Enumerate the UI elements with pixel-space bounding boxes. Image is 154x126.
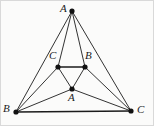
edge-B-Ap — [16, 89, 72, 112]
edge-A-C — [72, 11, 131, 111]
edge-A-B — [16, 11, 72, 112]
label-inner-bottom: A — [68, 92, 75, 103]
edge-B-C — [16, 111, 131, 112]
figure-canvas — [0, 0, 154, 126]
vertex-inner-right — [82, 64, 87, 69]
label-inner-left: C — [49, 50, 56, 61]
label-outer-left: B — [3, 103, 10, 114]
label-outer-apex: A — [60, 3, 67, 14]
vertex-inner-left — [55, 64, 60, 69]
geometry-figure: ABCCBA — [0, 0, 154, 126]
edge-Bp-Ap — [72, 67, 85, 89]
vertex-outer-right — [128, 108, 133, 113]
label-inner-right: B — [85, 50, 92, 61]
edge-C-Bp — [85, 67, 131, 111]
edge-A-Bp — [72, 11, 85, 67]
edge-Cp-Ap — [58, 67, 72, 89]
vertex-outer-apex — [69, 8, 74, 13]
edge-C-Ap — [72, 89, 131, 111]
edge-A-Cp — [58, 11, 72, 67]
vertex-outer-left — [13, 109, 18, 114]
label-outer-right: C — [137, 104, 144, 115]
